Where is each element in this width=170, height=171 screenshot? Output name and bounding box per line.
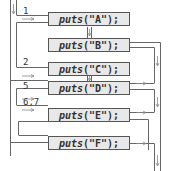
argument: ("C"); [83,64,119,75]
statement-box-b: puts("B"); [48,38,130,52]
statement-box-a: puts("A"); [48,12,130,26]
control-flow-diagram: 1 2 5 6,7 puts("A"); puts("B"); puts("C"… [0,0,170,171]
function-name: puts [59,83,83,94]
argument: ("A"); [83,14,119,25]
edge-label-1: 1 [23,6,28,16]
statement-box-c: puts("C"); [48,62,130,76]
function-name: puts [59,40,83,51]
edge-label-5: 5 [23,81,28,91]
function-name: puts [59,138,83,149]
statement-box-f: puts("F"); [48,136,130,150]
function-name: puts [59,14,83,25]
statement-box-e: puts("E"); [48,108,130,122]
function-name: puts [59,110,83,121]
edge-label-6-7: 6,7 [23,97,39,107]
argument: ("E"); [83,110,119,121]
argument: ("D"); [83,83,119,94]
argument: ("B"); [83,40,119,51]
argument: ("F"); [83,138,119,149]
function-name: puts [59,64,83,75]
edge-label-2: 2 [23,57,28,67]
statement-box-d: puts("D"); [48,81,130,95]
